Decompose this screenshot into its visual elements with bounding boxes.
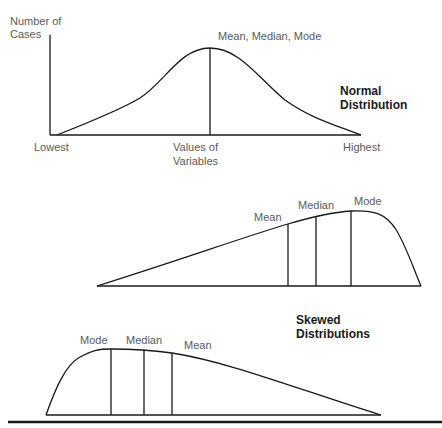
normal-title-line2: Distribution (340, 98, 407, 112)
skewed-title-line1: Skewed (296, 313, 341, 327)
neg-median-label: Median (298, 198, 334, 212)
neg-mode-label: Mode (354, 194, 382, 208)
x-axis-highest-label: Highest (343, 140, 380, 154)
positive-skew-chart (46, 349, 381, 415)
y-axis-label-line2: Cases (10, 27, 41, 41)
skewed-title-line2: Distributions (296, 327, 370, 341)
x-axis-title-line2: Variables (173, 154, 218, 168)
positive-skew-curve (46, 349, 381, 415)
normal-peak-label: Mean, Median, Mode (218, 29, 321, 43)
normal-curve (57, 48, 361, 135)
normal-distribution-chart (50, 35, 361, 135)
distribution-diagram (0, 0, 442, 428)
pos-mode-label: Mode (80, 333, 108, 347)
pos-mean-label: Mean (184, 338, 212, 352)
normal-title-line1: Normal (340, 84, 381, 98)
y-axis-label-line1: Number of (10, 14, 61, 28)
x-axis-lowest-label: Lowest (34, 140, 69, 154)
pos-median-label: Median (126, 333, 162, 347)
neg-mean-label: Mean (254, 210, 282, 224)
x-axis-title-line1: Values of (173, 140, 218, 154)
